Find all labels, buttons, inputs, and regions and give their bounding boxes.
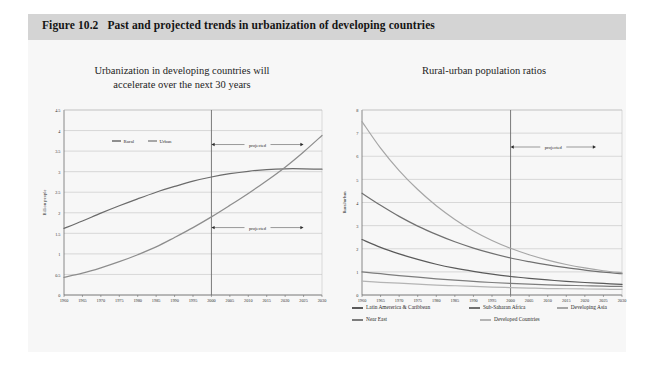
- legend-swatch-developing-asia: [557, 307, 568, 309]
- y-axis-tick-label: 3: [356, 224, 358, 229]
- y-axis-tick-label: 2.5: [55, 190, 60, 195]
- legend-item-developed-countries: Developed Countries: [480, 317, 576, 322]
- legend-swatch-near-east: [352, 319, 363, 321]
- x-axis-tick-label: 1995: [189, 298, 198, 303]
- x-axis-tick-label: 1960: [60, 298, 69, 303]
- x-axis-tick-label: 2015: [262, 298, 271, 303]
- y-axis-title: Rural/urban: [342, 191, 347, 214]
- figure-number: Figure 10.2: [42, 19, 98, 31]
- legend-label-rural: Rural: [124, 139, 135, 144]
- y-axis-tick-label: 4.5: [55, 108, 60, 113]
- legend-item-near-east: Near East: [352, 317, 480, 322]
- legend-row: Near EastDeveloped Countries: [352, 314, 630, 326]
- legend-label-near-east: Near East: [366, 317, 387, 322]
- y-axis-tick-label: 1.5: [55, 232, 60, 237]
- legend-label-latin-amererica-caribbean: Latin Amererica & Caribbean: [366, 305, 430, 310]
- x-axis-tick-label: 1965: [78, 298, 87, 303]
- chart-urbanization-trend: Urbanization in developing countries wil…: [34, 52, 330, 342]
- figure-header-bar: Figure 10.2Past and projected trends in …: [28, 14, 626, 40]
- y-axis-tick-label: 6: [356, 154, 359, 159]
- legend-row: Latin Amererica & CaribbeanSub-Saharan A…: [352, 302, 630, 314]
- x-axis-tick-label: 2030: [318, 298, 327, 303]
- legend-item-latin-amererica-caribbean: Latin Amererica & Caribbean: [352, 305, 469, 310]
- chart-right-plot: 0123456781960196519701975198019851990199…: [338, 52, 630, 342]
- legend-label-sub-saharan-africa: Sub-Saharan Africa: [483, 305, 525, 310]
- x-axis-tick-label: 1990: [170, 298, 179, 303]
- y-axis-title: Billion people: [42, 189, 47, 215]
- y-axis-tick-label: 3.5: [55, 149, 60, 154]
- figure-root: Figure 10.2Past and projected trends in …: [0, 0, 654, 367]
- legend-swatch-sub-saharan-africa: [469, 307, 480, 309]
- x-axis-tick-label: 1980: [133, 298, 142, 303]
- x-axis-tick-label: 1975: [115, 298, 124, 303]
- y-axis-tick-label: 1: [356, 270, 358, 275]
- x-axis-tick-label: 2000: [207, 298, 216, 303]
- annotation-label: projected: [249, 226, 267, 231]
- chart-rural-urban-ratios: Rural-urban population ratios 0123456781…: [338, 52, 630, 342]
- x-axis-tick-label: 1985: [152, 298, 161, 303]
- y-axis-tick-label: 2: [58, 211, 60, 216]
- x-axis-tick-label: 2020: [281, 298, 290, 303]
- y-axis-tick-label: 4: [356, 201, 359, 206]
- legend-label-developed-countries: Developed Countries: [494, 317, 540, 322]
- x-axis-tick-label: 2010: [244, 298, 253, 303]
- chart-right-legend: Latin Amererica & CaribbeanSub-Saharan A…: [352, 302, 630, 326]
- x-axis-tick-label: 2025: [299, 298, 308, 303]
- legend-item-sub-saharan-africa: Sub-Saharan Africa: [469, 305, 557, 310]
- y-axis-tick-label: 0.5: [55, 273, 60, 278]
- figure-title: Past and projected trends in urbanizatio…: [107, 19, 434, 31]
- y-axis-tick-label: 7: [356, 131, 359, 136]
- legend-swatch-developed-countries: [480, 319, 491, 321]
- y-axis-tick-label: 3: [58, 170, 60, 175]
- x-axis-tick-label: 2005: [226, 298, 235, 303]
- figure-caption: Figure 10.2Past and projected trends in …: [42, 19, 435, 31]
- legend-label-urban: Urban: [160, 139, 173, 144]
- y-axis-tick-label: 4: [58, 129, 61, 134]
- y-axis-tick-label: 1: [58, 252, 60, 257]
- y-axis-tick-label: 5: [356, 178, 358, 183]
- legend-label-developing-asia: Developing Asia: [571, 305, 607, 310]
- chart-left-plot: 00.511.522.533.544.519601965197019751980…: [34, 52, 330, 342]
- legend-item-developing-asia: Developing Asia: [557, 305, 630, 310]
- legend-swatch-latin-amererica-caribbean: [352, 307, 363, 309]
- annotation-label: projected: [249, 143, 267, 148]
- y-axis-tick-label: 2: [356, 247, 358, 252]
- x-axis-tick-label: 1970: [97, 298, 106, 303]
- y-axis-tick-label: 8: [356, 108, 358, 113]
- annotation-label: projected: [545, 145, 563, 150]
